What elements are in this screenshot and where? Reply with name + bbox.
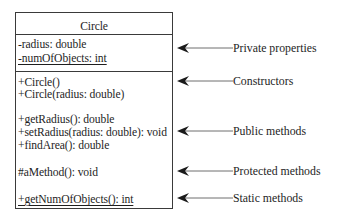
constructor-radius: +Circle(radius: double) [18, 88, 124, 101]
class-name: Circle [16, 20, 172, 33]
method-get-radius: +getRadius(): double [18, 113, 114, 126]
arrow-left-icon [177, 193, 233, 203]
divider-name-properties [16, 34, 172, 35]
arrow-left-icon [177, 76, 233, 86]
property-num-of-objects: -numOfObjects: int [18, 52, 107, 65]
method-set-radius: +setRadius(radius: double): void [18, 126, 167, 139]
arrow-left-icon [177, 43, 233, 53]
method-get-num-of-objects: +getNumOfObjects(): int [18, 193, 133, 206]
method-a-method: #aMethod(): void [18, 166, 98, 179]
property-radius: -radius: double [18, 38, 86, 51]
annotation-private-properties: Private properties [233, 42, 317, 55]
divider-properties-methods [16, 71, 172, 72]
annotation-constructors: Constructors [233, 75, 293, 88]
annotation-protected-methods: Protected methods [233, 165, 320, 178]
uml-class-box: Circle -radius: double -numOfObjects: in… [15, 12, 173, 209]
annotation-public-methods: Public methods [233, 125, 306, 138]
arrow-left-icon [177, 166, 233, 176]
method-find-area: +findArea(): double [18, 139, 109, 152]
annotation-static-methods: Static methods [233, 192, 303, 205]
arrow-left-icon [177, 126, 233, 136]
